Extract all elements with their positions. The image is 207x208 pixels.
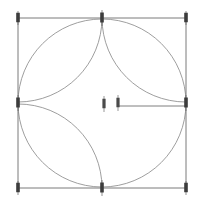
node-midpoint-bottom[interactable]: [100, 180, 104, 196]
arc-from-top-right-corner: [102, 0, 207, 102]
arc-from-bottom-left-corner: [0, 104, 102, 208]
node-midpoint-left[interactable]: [16, 95, 20, 111]
inscribed-circle: [18, 19, 186, 187]
node-corner-bottom-right[interactable]: [184, 181, 188, 195]
center-pin-left[interactable]: [102, 96, 105, 112]
arc-from-top-left-corner: [0, 0, 102, 102]
construction-drawing[interactable]: [0, 0, 207, 208]
node-midpoint-right[interactable]: [184, 95, 188, 111]
center-pin-right[interactable]: [116, 95, 119, 111]
sketch-canvas[interactable]: Geometric Construction Sketch: [0, 0, 207, 208]
node-corner-top-left[interactable]: [16, 11, 20, 25]
node-midpoint-top[interactable]: [100, 10, 104, 26]
node-corner-top-right[interactable]: [184, 11, 188, 25]
node-corner-bottom-left[interactable]: [16, 181, 20, 195]
